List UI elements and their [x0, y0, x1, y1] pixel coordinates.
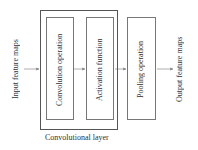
pooling-operation-label: Pooling operation: [137, 18, 145, 121]
activation-function-label: Activation function: [96, 18, 104, 121]
output-feature-maps-label: Output feature maps: [176, 28, 184, 110]
convolutional-layer-label: Convolutional layer: [45, 133, 109, 142]
convolution-operation-box: Convolution operation: [46, 17, 74, 120]
convolution-operation-label: Convolution operation: [56, 18, 64, 121]
input-feature-maps-label: Input feature maps: [12, 34, 20, 104]
pooling-operation-box: Pooling operation: [127, 17, 156, 120]
activation-function-box: Activation function: [86, 17, 114, 120]
